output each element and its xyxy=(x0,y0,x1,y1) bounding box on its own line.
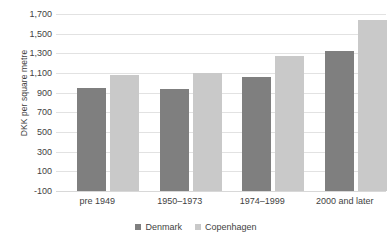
legend-label: Denmark xyxy=(145,222,182,232)
bar-copenhagen xyxy=(358,20,387,191)
y-axis-tick-label: 900 xyxy=(0,89,52,98)
x-axis-tick-label: pre 1949 xyxy=(56,196,139,207)
x-axis-tick-label: 1950–1973 xyxy=(139,196,222,207)
chart-legend: DenmarkCopenhagen xyxy=(0,222,392,232)
bar-copenhagen xyxy=(193,73,222,191)
bar-groups xyxy=(56,14,386,191)
legend-item-copenhagen[interactable]: Copenhagen xyxy=(195,222,257,232)
gridline xyxy=(56,191,386,192)
y-axis-tick-label: 1,700 xyxy=(0,10,52,19)
y-axis-tick-label: 1,500 xyxy=(0,30,52,39)
bar-denmark xyxy=(77,88,106,191)
x-axis-tick-label: 2000 and later xyxy=(304,196,387,207)
legend-label: Copenhagen xyxy=(205,222,257,232)
bar-denmark xyxy=(325,51,354,191)
bar-chart: DKK per square metre 1,7001,5001,3001,10… xyxy=(0,0,392,239)
y-axis-tick-label: 700 xyxy=(0,108,52,117)
y-axis-tick-label: 300 xyxy=(0,148,52,157)
y-axis-tick-label: 1,100 xyxy=(0,69,52,78)
bar-group xyxy=(139,14,222,191)
bar-group xyxy=(56,14,139,191)
x-axis-tick-label: 1974–1999 xyxy=(221,196,304,207)
y-axis-tick-label: -100 xyxy=(0,187,52,196)
bar-copenhagen xyxy=(110,75,139,191)
legend-item-denmark[interactable]: Denmark xyxy=(135,222,182,232)
legend-swatch-icon xyxy=(195,224,201,230)
y-axis-tick-label: 500 xyxy=(0,128,52,137)
x-axis-tick-labels: pre 19491950–19731974–19992000 and later xyxy=(56,196,386,207)
y-axis-tick-label: 1,300 xyxy=(0,49,52,58)
bar-group xyxy=(221,14,304,191)
plot-area xyxy=(56,14,386,191)
bar-denmark xyxy=(160,89,189,191)
bar-denmark xyxy=(242,77,271,191)
bar-copenhagen xyxy=(275,56,304,191)
bar-group xyxy=(304,14,387,191)
legend-swatch-icon xyxy=(135,224,141,230)
y-axis-tick-label: 100 xyxy=(0,167,52,176)
